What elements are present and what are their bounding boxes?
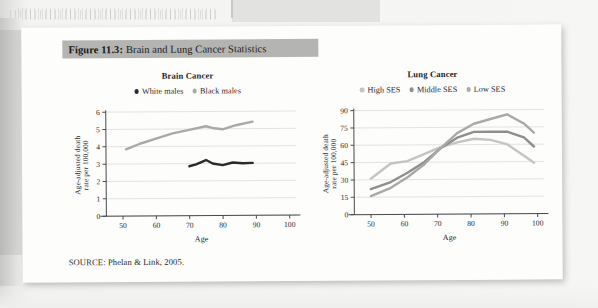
legend-item-white-males[interactable]: White males bbox=[134, 87, 183, 96]
svg-text:70: 70 bbox=[434, 219, 442, 228]
scan-artifact-block bbox=[232, 0, 380, 22]
y-axis-title-line2: rate per 100,000 bbox=[329, 139, 338, 189]
legend-label-white-males: White males bbox=[142, 87, 184, 96]
chart-title-brain-cancer: Brain Cancer bbox=[67, 70, 307, 82]
legend-label-black-males: Black males bbox=[200, 86, 241, 95]
legend-lung-cancer: High SES Middle SES Low SES bbox=[310, 82, 556, 97]
svg-text:90: 90 bbox=[501, 219, 509, 228]
legend-dot-low-ses bbox=[466, 87, 471, 92]
svg-text:Age: Age bbox=[443, 233, 457, 242]
svg-text:75: 75 bbox=[340, 124, 348, 133]
page-edge-texture-secondary bbox=[10, 10, 220, 19]
svg-text:30: 30 bbox=[341, 176, 349, 185]
legend-label-middle-ses: Middle SES bbox=[417, 85, 457, 94]
chart-title-lung-cancer: Lung Cancer bbox=[309, 68, 555, 81]
svg-text:45: 45 bbox=[340, 158, 348, 167]
svg-text:15: 15 bbox=[341, 193, 349, 202]
svg-text:5: 5 bbox=[96, 125, 100, 134]
svg-text:100: 100 bbox=[532, 218, 544, 227]
source-note: SOURCE: Phelan & Link, 2005. bbox=[69, 257, 185, 268]
svg-text:90: 90 bbox=[340, 106, 348, 115]
svg-text:2: 2 bbox=[96, 177, 100, 186]
svg-text:6: 6 bbox=[96, 108, 100, 117]
svg-text:4: 4 bbox=[96, 143, 100, 152]
y-axis-title-lung-cancer: Age-adjusted death rate per 100,000 bbox=[322, 113, 339, 215]
svg-text:3: 3 bbox=[96, 160, 100, 169]
legend-dot-high-ses bbox=[360, 88, 365, 93]
chart-svg-lung-cancer: 01530456075905060708090100Age bbox=[310, 101, 557, 252]
svg-text:90: 90 bbox=[253, 220, 261, 229]
scan-artifact-edge bbox=[231, 0, 233, 18]
plot-area-lung-cancer: Age-adjusted death rate per 100,000 0153… bbox=[310, 101, 557, 252]
svg-text:60: 60 bbox=[340, 141, 348, 150]
svg-text:100: 100 bbox=[284, 220, 296, 229]
svg-text:0: 0 bbox=[345, 210, 349, 219]
legend-item-low-ses[interactable]: Low SES bbox=[466, 85, 505, 94]
svg-text:60: 60 bbox=[153, 221, 161, 230]
figure-title-bar: Figure 11.3: Brain and Lung Cancer Stati… bbox=[62, 39, 318, 59]
svg-text:70: 70 bbox=[186, 221, 194, 230]
legend-label-high-ses: High SES bbox=[367, 85, 400, 94]
svg-text:80: 80 bbox=[219, 220, 227, 229]
svg-text:0: 0 bbox=[97, 212, 101, 221]
svg-text:60: 60 bbox=[401, 219, 409, 228]
svg-text:80: 80 bbox=[467, 219, 475, 228]
legend-brain-cancer: White males Black males bbox=[68, 84, 308, 98]
figure-card: Figure 11.3: Brain and Lung Cancer Stati… bbox=[21, 24, 563, 282]
svg-text:1: 1 bbox=[96, 195, 100, 204]
legend-dot-white-males bbox=[134, 89, 139, 94]
chart-panel-brain-cancer: Brain Cancer White males Black males Age… bbox=[67, 70, 308, 256]
legend-dot-middle-ses bbox=[409, 88, 414, 93]
svg-text:50: 50 bbox=[119, 221, 127, 230]
legend-item-high-ses[interactable]: High SES bbox=[360, 85, 400, 94]
figure-number: Figure 11.3: bbox=[68, 44, 123, 55]
legend-item-middle-ses[interactable]: Middle SES bbox=[409, 85, 457, 94]
svg-text:50: 50 bbox=[367, 219, 375, 228]
legend-dot-black-males bbox=[193, 89, 198, 94]
legend-item-black-males[interactable]: Black males bbox=[193, 86, 241, 95]
svg-text:Age: Age bbox=[195, 235, 209, 244]
chart-svg-brain-cancer: 01234565060708090100Age bbox=[68, 103, 309, 254]
chart-panel-lung-cancer: Lung Cancer High SES Middle SES Low SES … bbox=[309, 68, 556, 254]
plot-area-brain-cancer: Age-adjusted death rate per 100,000 0123… bbox=[68, 103, 309, 254]
legend-label-low-ses: Low SES bbox=[474, 85, 506, 94]
y-axis-title-brain-cancer: Age-adjusted death rate per 100,000 bbox=[74, 114, 91, 216]
figure-title: Brain and Lung Cancer Statistics bbox=[126, 43, 266, 55]
y-axis-title-line2: rate per 100,000 bbox=[81, 140, 90, 190]
